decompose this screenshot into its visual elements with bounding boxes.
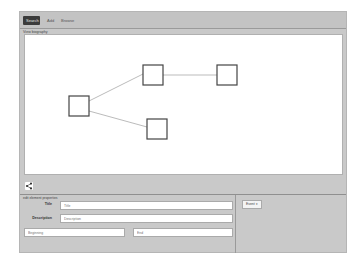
properties-title: edit element properties <box>23 196 58 200</box>
end-input[interactable] <box>133 228 233 237</box>
description-label: Description <box>24 216 52 220</box>
edge-n1-n4 <box>89 111 147 127</box>
diagram-node[interactable] <box>147 119 167 139</box>
properties-panel: edit element properties Title Descriptio… <box>20 195 235 253</box>
tab-search[interactable]: Search <box>23 16 40 25</box>
event-type-dropdown[interactable]: Event ▾ <box>242 200 262 209</box>
share-button[interactable] <box>25 182 33 190</box>
edge-n1-n2 <box>89 74 143 101</box>
description-input[interactable] <box>60 214 233 223</box>
title-label: Title <box>24 202 52 206</box>
share-icon <box>25 182 33 190</box>
diagram-node[interactable] <box>69 96 89 116</box>
title-input[interactable] <box>60 201 233 210</box>
app-window: Search Add Browse View biography edit el… <box>19 11 347 253</box>
tab-add[interactable]: Add <box>44 16 57 25</box>
diagram-graph <box>25 35 344 176</box>
beginning-input[interactable] <box>24 228 125 237</box>
panel-separator <box>235 195 236 253</box>
tab-browse[interactable]: Browse <box>58 16 77 25</box>
tab-bar: Search Add Browse <box>20 12 346 29</box>
diagram-node[interactable] <box>217 65 237 85</box>
diagram-canvas[interactable] <box>24 34 343 175</box>
diagram-node[interactable] <box>143 65 163 85</box>
